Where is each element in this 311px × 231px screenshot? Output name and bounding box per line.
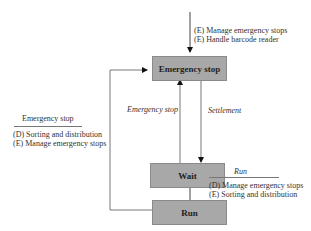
- left-annotation-rule: [14, 126, 82, 127]
- entry-action-2: (E) Handle barcode reader: [194, 35, 279, 44]
- transition-label-emergency: Emergency stop: [127, 105, 178, 114]
- left-annotation-line-2: (E) Manage emergency stops: [13, 139, 106, 148]
- state-run: Run: [152, 200, 227, 225]
- run-annotation-line-1: (D) Manage emergency stops: [209, 181, 303, 190]
- state-label: Run: [181, 208, 198, 218]
- arrow-run-to-emergency: [110, 70, 153, 210]
- run-annotation-line-2: (E) Sorting and distribution: [209, 190, 297, 199]
- state-label: Emergency stop: [159, 64, 221, 74]
- entry-action-1: (E) Manage emergency stops: [194, 26, 287, 35]
- left-annotation-title: Emergency stop: [22, 114, 74, 123]
- run-annotation-title: Run: [234, 167, 247, 176]
- transition-label-settlement: Settlement: [208, 106, 241, 115]
- run-annotation-rule: [209, 177, 279, 178]
- state-emergency-stop: Emergency stop: [152, 56, 227, 81]
- left-annotation-line-1: (D) Sorting and distribution: [13, 130, 102, 139]
- state-label: Wait: [178, 171, 197, 181]
